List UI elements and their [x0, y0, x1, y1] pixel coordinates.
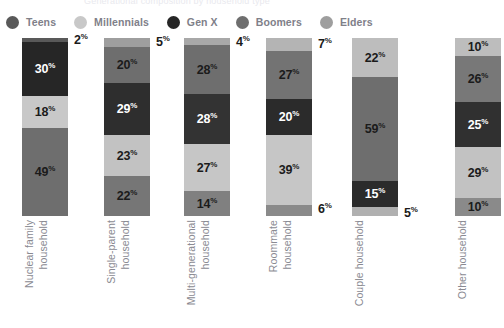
- bar-segment[interactable]: [184, 38, 230, 45]
- bar-group: 28%28%27%14%4%: [184, 38, 230, 216]
- category-axis-label: Nuclear familyhousehold: [24, 220, 51, 326]
- stacked-bar[interactable]: 22%59%15%: [352, 38, 398, 216]
- percent-symbol: %: [411, 205, 418, 214]
- bar-segment[interactable]: 10%: [455, 38, 501, 56]
- chart-root: Generational composition by household ty…: [0, 0, 504, 328]
- bar-segment[interactable]: 29%: [455, 147, 501, 199]
- legend-item-millennials[interactable]: Millennials: [74, 16, 149, 29]
- legend-item-label: Millennials: [94, 16, 149, 28]
- segment-value-label: 22%: [117, 189, 137, 203]
- segment-value-label-outside: 5%: [156, 35, 170, 49]
- segment-value-label: 10%: [468, 200, 488, 214]
- percent-symbol: %: [130, 57, 137, 66]
- segment-value-label: 22%: [365, 51, 385, 65]
- bar-segment[interactable]: 27%: [266, 51, 312, 100]
- bar-segment[interactable]: 22%: [352, 38, 398, 77]
- bar-segment[interactable]: 39%: [266, 135, 312, 205]
- bar-segment[interactable]: 59%: [352, 77, 398, 181]
- percent-symbol: %: [48, 61, 55, 70]
- percent-symbol: %: [210, 111, 217, 120]
- percent-symbol: %: [130, 101, 137, 110]
- percent-symbol: %: [210, 62, 217, 71]
- segment-value-label-outside: 4%: [236, 35, 250, 49]
- category-axis-label: Multi-generationalhousehold: [186, 220, 213, 326]
- stacked-bar[interactable]: 30%18%49%: [22, 38, 68, 216]
- category-axis: Nuclear familyhouseholdSingle-parenthous…: [0, 220, 504, 328]
- category-axis-label-line: Other household: [457, 220, 468, 299]
- bar-segment[interactable]: 15%: [352, 181, 398, 207]
- legend-item-teens[interactable]: Teens: [6, 16, 56, 29]
- segment-value-label: 28%: [197, 112, 217, 126]
- percent-symbol: %: [378, 50, 385, 59]
- segment-value-text: 7: [318, 37, 325, 51]
- bar-segment[interactable]: 20%: [266, 99, 312, 135]
- bar-segment[interactable]: 14%: [184, 191, 230, 216]
- category-axis-label-line: Couple household: [354, 220, 365, 306]
- segment-value-label: 14%: [197, 197, 217, 211]
- bar-segment[interactable]: 25%: [455, 102, 501, 147]
- bar-segment[interactable]: [266, 205, 312, 216]
- chart-legend: TeensMillennialsGen XBoomersElders: [6, 13, 391, 31]
- bar-segment[interactable]: 23%: [104, 135, 150, 176]
- percent-symbol: %: [163, 34, 170, 43]
- legend-item-boomers[interactable]: Boomers: [236, 16, 302, 29]
- bar-segment[interactable]: 26%: [455, 56, 501, 102]
- segment-value-label: 20%: [279, 110, 299, 124]
- category-axis-label: Single-parenthousehold: [106, 220, 133, 326]
- legend-item-label: Teens: [26, 16, 56, 28]
- bar-segment[interactable]: 20%: [104, 47, 150, 83]
- percent-symbol: %: [210, 196, 217, 205]
- category-axis-label-line: Multi-generational: [186, 220, 197, 305]
- stacked-bar[interactable]: 28%28%27%14%: [184, 38, 230, 216]
- percent-symbol: %: [481, 117, 488, 126]
- bar-group: 20%29%23%22%5%: [104, 38, 150, 216]
- bar-segment[interactable]: 28%: [184, 45, 230, 94]
- bar-segment[interactable]: [266, 38, 312, 51]
- legend-swatch-icon: [74, 16, 87, 29]
- segment-value-label: 18%: [35, 105, 55, 119]
- stacked-bar[interactable]: 27%20%39%: [266, 38, 312, 216]
- bar-segment[interactable]: 29%: [104, 83, 150, 135]
- bar-segment[interactable]: [352, 207, 398, 216]
- segment-value-text: 5: [156, 36, 163, 50]
- legend-item-label: Boomers: [256, 16, 302, 28]
- segment-value-label-outside: 2%: [74, 33, 88, 47]
- plot-area: 30%18%49%2%20%29%23%22%5%28%28%27%14%4%2…: [0, 38, 504, 216]
- segment-value-label: 29%: [117, 102, 137, 116]
- percent-symbol: %: [48, 104, 55, 113]
- bar-segment[interactable]: 28%: [184, 94, 230, 143]
- legend-item-label: Elders: [340, 16, 373, 28]
- segment-value-label-outside: 5%: [404, 206, 418, 220]
- bar-segment[interactable]: 49%: [22, 128, 68, 216]
- category-axis-label-line: household: [120, 220, 131, 269]
- stacked-bar[interactable]: 20%29%23%22%: [104, 38, 150, 216]
- percent-symbol: %: [292, 67, 299, 76]
- bar-segment[interactable]: [104, 38, 150, 47]
- segment-value-text: 5: [404, 206, 411, 220]
- segment-value-label: 20%: [117, 58, 137, 72]
- segment-value-label: 15%: [365, 187, 385, 201]
- bar-segment[interactable]: 27%: [184, 144, 230, 192]
- bar-segment[interactable]: 18%: [22, 96, 68, 128]
- category-axis-label-line: household: [38, 220, 49, 269]
- segment-value-label: 49%: [35, 165, 55, 179]
- segment-value-label: 10%: [468, 40, 488, 54]
- category-axis-label: Roommatehousehold: [268, 220, 295, 326]
- bar-segment[interactable]: 22%: [104, 176, 150, 216]
- legend-swatch-icon: [167, 16, 180, 29]
- bar-segment[interactable]: 30%: [22, 42, 68, 96]
- percent-symbol: %: [292, 162, 299, 171]
- percent-symbol: %: [325, 36, 332, 45]
- category-axis-label-line: Nuclear family: [24, 220, 35, 288]
- bar-group: 10%26%25%29%10%: [455, 38, 501, 216]
- stacked-bar[interactable]: 10%26%25%29%10%: [455, 38, 501, 216]
- segment-value-label: 39%: [279, 163, 299, 177]
- percent-symbol: %: [378, 186, 385, 195]
- percent-symbol: %: [481, 199, 488, 208]
- bar-segment[interactable]: 10%: [455, 198, 501, 216]
- percent-symbol: %: [325, 201, 332, 210]
- category-axis-label-line: household: [282, 220, 293, 269]
- legend-item-elders[interactable]: Elders: [320, 16, 373, 29]
- percent-symbol: %: [481, 71, 488, 80]
- legend-item-gen-x[interactable]: Gen X: [167, 16, 218, 29]
